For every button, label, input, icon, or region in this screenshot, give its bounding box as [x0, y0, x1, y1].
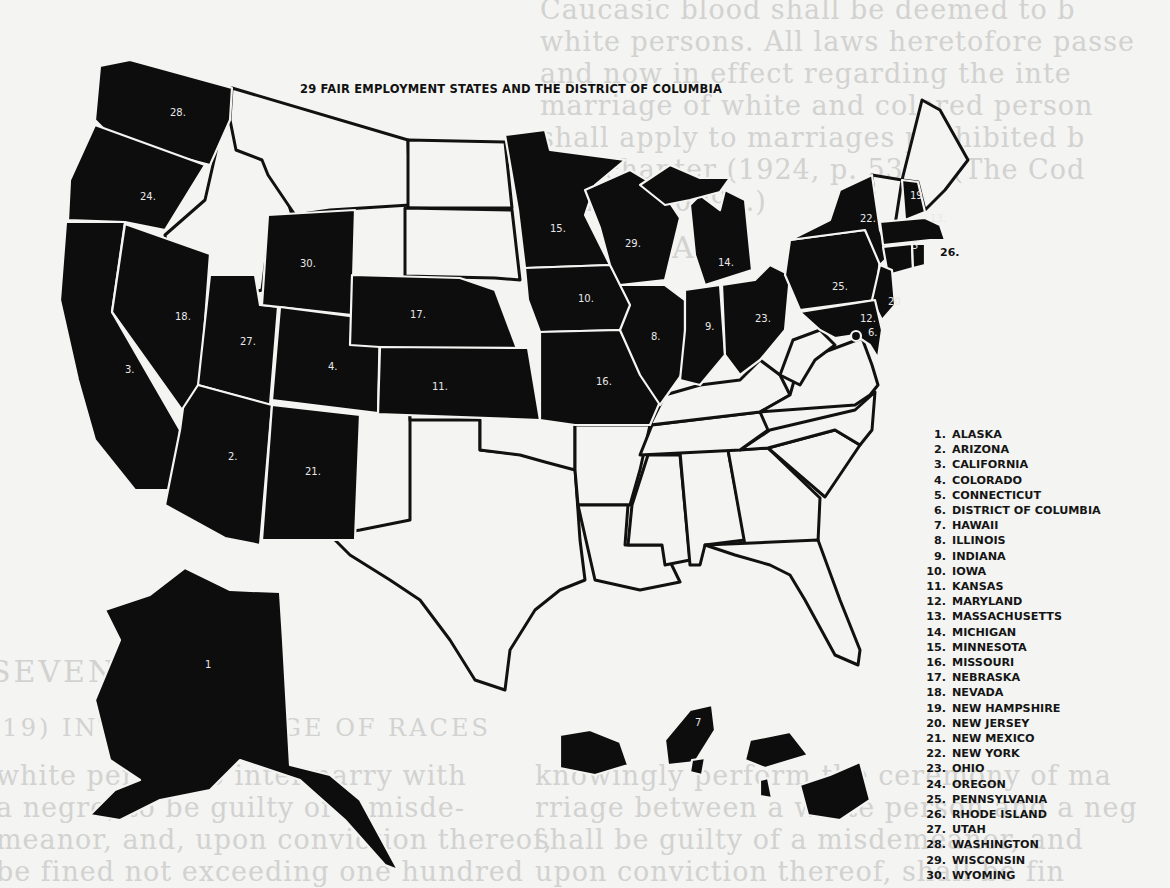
label-michigan: 14.	[718, 257, 734, 268]
state-district-of-columbia	[851, 331, 861, 341]
legend-item: 8.ILLINOIS	[918, 533, 1101, 548]
legend-num: 5.	[918, 488, 952, 503]
legend-item: 4.COLORADO	[918, 473, 1101, 488]
label-new-jersey: 20	[888, 296, 901, 307]
legend-item: 28.WASHINGTON	[918, 837, 1101, 852]
legend-num: 14.	[918, 625, 952, 640]
legend-num: 1.	[918, 427, 952, 442]
legend-name: NEBRASKA	[952, 670, 1020, 685]
legend-name: CALIFORNIA	[952, 457, 1028, 472]
legend-item: 25.PENNSYLVANIA	[918, 792, 1101, 807]
legend-item: 9.INDIANA	[918, 549, 1101, 564]
label-missouri: 16.	[596, 376, 612, 387]
legend-item: 10.IOWA	[918, 564, 1101, 579]
label-new-hampshire: 19.	[910, 190, 926, 201]
state-hawaii-big-island	[800, 762, 870, 820]
legend-name: WISCONSIN	[952, 853, 1025, 868]
state-pennsylvania	[785, 230, 880, 310]
legend-name: OHIO	[952, 761, 985, 776]
legend-item: 16.MISSOURI	[918, 655, 1101, 670]
legend-item: 15.MINNESOTA	[918, 640, 1101, 655]
label-nevada: 18.	[175, 311, 191, 322]
legend-num: 3.	[918, 457, 952, 472]
label-iowa: 10.	[578, 293, 594, 304]
legend-num: 2.	[918, 442, 952, 457]
legend-item: 20.NEW JERSEY	[918, 716, 1101, 731]
label-california: 3.	[125, 364, 135, 375]
legend-name: NEVADA	[952, 685, 1004, 700]
legend-name: NEW YORK	[952, 746, 1020, 761]
label-kansas: 11.	[432, 381, 448, 392]
label-utah: 27.	[240, 336, 256, 347]
label-nebraska: 17.	[410, 309, 426, 320]
legend-num: 30.	[918, 868, 952, 883]
legend-item: 22.NEW YORK	[918, 746, 1101, 761]
label-new-mexico: 21.	[305, 466, 321, 477]
legend-num: 19.	[918, 701, 952, 716]
legend-name: ALASKA	[952, 427, 1002, 442]
legend-num: 24.	[918, 777, 952, 792]
state-michigan	[690, 190, 752, 285]
legend-num: 27.	[918, 822, 952, 837]
legend-name: HAWAII	[952, 518, 998, 533]
legend-item: 2.ARIZONA	[918, 442, 1101, 457]
label-pennsylvania: 25.	[832, 281, 848, 292]
legend-name: IOWA	[952, 564, 986, 579]
legend-num: 8.	[918, 533, 952, 548]
label-alaska: 1	[205, 659, 211, 670]
map-title: 29 FAIR EMPLOYMENT STATES AND THE DISTRI…	[300, 82, 722, 96]
legend-item: 5.CONNECTICUT	[918, 488, 1101, 503]
state-south-dakota	[405, 208, 520, 280]
legend-item: 26.RHODE ISLAND	[918, 807, 1101, 822]
legend-num: 15.	[918, 640, 952, 655]
legend-num: 20.	[918, 716, 952, 731]
legend-name: WYOMING	[952, 868, 1015, 883]
legend-name: KANSAS	[952, 579, 1003, 594]
label-district-of-columbia: 6.	[868, 327, 878, 338]
legend-num: 11.	[918, 579, 952, 594]
legend-num: 23.	[918, 761, 952, 776]
legend-name: CONNECTICUT	[952, 488, 1041, 503]
legend-name: PENNSYLVANIA	[952, 792, 1047, 807]
legend-num: 18.	[918, 685, 952, 700]
label-indiana: 9.	[705, 321, 715, 332]
legend-item: 3.CALIFORNIA	[918, 457, 1101, 472]
legend-item: 29.WISCONSIN	[918, 853, 1101, 868]
legend-name: MINNESOTA	[952, 640, 1027, 655]
legend-item: 17.NEBRASKA	[918, 670, 1101, 685]
legend-num: 16.	[918, 655, 952, 670]
legend-name: RHODE ISLAND	[952, 807, 1047, 822]
legend-name: MISSOURI	[952, 655, 1014, 670]
legend-num: 12.	[918, 594, 952, 609]
legend-item: 21.NEW MEXICO	[918, 731, 1101, 746]
legend-num: 26.	[918, 807, 952, 822]
label-hawaii: 7	[695, 717, 701, 728]
legend-name: COLORADO	[952, 473, 1022, 488]
legend-item: 18.NEVADA	[918, 685, 1101, 700]
legend-item: 13.MASSACHUSETTS	[918, 609, 1101, 624]
legend-num: 4.	[918, 473, 952, 488]
state-indiana	[680, 285, 725, 385]
state-hawaii-kauai	[560, 730, 628, 775]
label-maryland: 12.	[860, 313, 876, 324]
state-hawaii-molokai	[690, 758, 705, 775]
legend-name: NEW JERSEY	[952, 716, 1029, 731]
legend-item: 24.OREGON	[918, 777, 1101, 792]
state-hawaii-lanai	[760, 778, 772, 798]
legend-name: MARYLAND	[952, 594, 1022, 609]
legend-num: 13.	[918, 609, 952, 624]
legend-num: 6.	[918, 503, 952, 518]
label-minnesota: 15.	[550, 223, 566, 234]
label-illinois: 8.	[651, 331, 661, 342]
label-ohio: 23.	[755, 313, 771, 324]
legend-num: 17.	[918, 670, 952, 685]
state-hawaii-oahu	[665, 705, 715, 765]
state-hawaii-maui	[745, 732, 808, 768]
legend-item: 14.MICHIGAN	[918, 625, 1101, 640]
legend-num: 29.	[918, 853, 952, 868]
label-washington: 28.	[170, 107, 186, 118]
legend-name: UTAH	[952, 822, 986, 837]
label-wyoming: 30.	[300, 258, 316, 269]
label-arizona: 2.	[228, 451, 238, 462]
label-colorado: 4.	[328, 361, 338, 372]
